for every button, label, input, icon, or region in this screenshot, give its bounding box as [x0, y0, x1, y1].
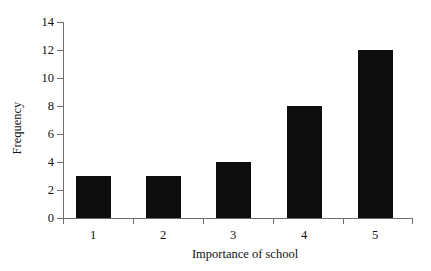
- y-axis-tick-label-text: 2: [18, 184, 54, 196]
- x-axis-tick-label: 2: [143, 228, 183, 242]
- bar-category-4: [287, 106, 322, 218]
- y-axis-tick: [57, 162, 63, 163]
- bar-category-5: [358, 50, 393, 218]
- y-axis-tick-label-text: 10: [18, 72, 54, 84]
- y-axis-tick: [57, 190, 63, 191]
- plot-area: 0 2 4 6 8 10 12 14: [0, 0, 431, 271]
- x-axis-tick-label: 4: [284, 228, 324, 242]
- x-axis-tick-label: 5: [355, 228, 395, 242]
- x-axis-tick: [133, 218, 134, 224]
- y-axis-tick: [57, 106, 63, 107]
- bar-category-2: [146, 176, 181, 218]
- x-axis-tick: [343, 218, 344, 224]
- y-axis-tick: [57, 22, 63, 23]
- x-axis-line: [63, 218, 413, 219]
- x-axis-tick-label: 3: [213, 228, 253, 242]
- x-axis-title: Importance of school: [145, 247, 345, 261]
- x-axis-tick: [412, 218, 413, 224]
- bar-category-3: [216, 162, 251, 218]
- x-axis-tick-label: 1: [73, 228, 113, 242]
- x-axis-tick: [63, 218, 64, 224]
- y-axis-tick-label: 2: [10, 184, 54, 196]
- y-axis-tick-label: 10: [10, 72, 54, 84]
- bar-category-1: [76, 176, 111, 218]
- y-axis-tick-label-text: 14: [18, 16, 54, 28]
- y-axis-tick-label-text: 12: [18, 44, 54, 56]
- y-axis-tick: [57, 50, 63, 51]
- y-axis-tick-label: 14: [10, 16, 54, 28]
- y-axis-tick: [57, 78, 63, 79]
- y-axis-line: [63, 22, 64, 219]
- y-axis-tick-label: 12: [10, 44, 54, 56]
- y-axis-tick: [57, 134, 63, 135]
- x-axis-tick: [203, 218, 204, 224]
- x-axis-tick: [273, 218, 274, 224]
- y-axis-tick-label-text: 0: [18, 212, 54, 224]
- y-axis-tick-label: 0: [10, 212, 54, 224]
- y-axis-title: Frequency: [10, 88, 24, 168]
- bar-chart: 0 2 4 6 8 10 12 14: [0, 0, 431, 271]
